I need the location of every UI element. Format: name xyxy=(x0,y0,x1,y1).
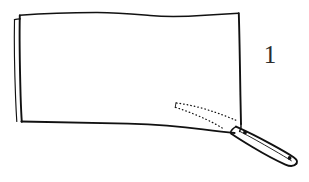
blade-cutting-edge xyxy=(21,122,234,134)
blade-fold-path-dotted-arcs xyxy=(175,103,236,129)
figure-number-label: 1 xyxy=(258,40,282,70)
blade-thickness-outer-line xyxy=(14,20,16,122)
pivot-rivet-dot xyxy=(243,131,247,135)
fold-path-arc-lower xyxy=(176,107,224,128)
knife-sketch-svg xyxy=(0,0,309,182)
butt-rivet-dot xyxy=(288,156,292,160)
fold-path-arc-upper xyxy=(177,103,237,120)
blade-outline xyxy=(20,13,242,133)
blade-top-edge xyxy=(20,13,239,17)
knife-handle xyxy=(231,127,297,166)
figure-canvas: 1 xyxy=(0,0,309,182)
blade-left-edge xyxy=(20,15,22,121)
handle-lower-edge xyxy=(231,134,296,166)
blade-right-edge xyxy=(239,13,241,124)
handle-inner-contour xyxy=(240,132,291,161)
